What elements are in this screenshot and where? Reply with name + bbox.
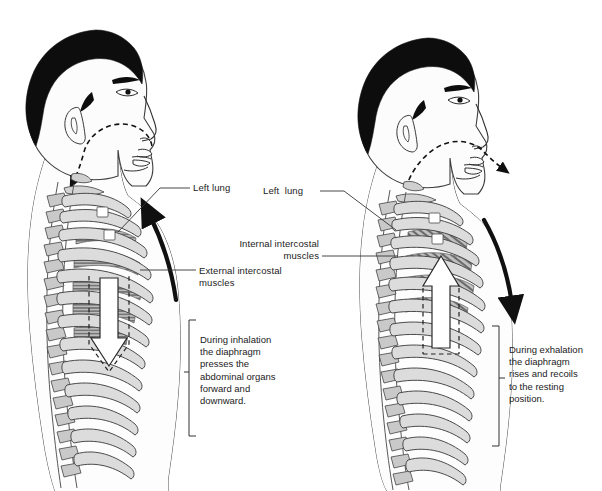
caption-bracket-left: [189, 320, 196, 436]
caption-exhalation: During exhalation the diaphragm rises an…: [509, 344, 602, 405]
pupil-left: [125, 89, 130, 94]
label-left-lung-exhalation: Left lung: [263, 185, 303, 197]
exhalation-figure-group: [320, 38, 512, 491]
label-external-intercostal-muscles: External intercostal muscles: [199, 265, 282, 288]
inhalation-figure-group: [26, 30, 196, 491]
caption-inhalation: During inhalation the diaphragm presses …: [200, 334, 292, 407]
label-left-lung-inhalation: Left lung: [193, 182, 230, 194]
label-internal-intercostal-muscles: Internal intercostal muscles: [214, 238, 319, 261]
diagram-canvas: Left lung External intercostal muscles D…: [0, 0, 602, 491]
pupil-right: [457, 97, 462, 102]
